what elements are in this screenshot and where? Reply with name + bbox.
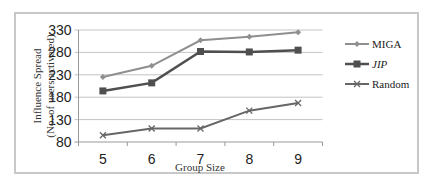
x-tick-label: 9 [294, 151, 302, 167]
jip-marker [246, 48, 253, 55]
y-axis-subtitle: (No. of users activated) [44, 34, 57, 138]
x-tick-label: 5 [99, 151, 107, 167]
x-tick-label: 6 [148, 151, 156, 167]
legend-item-miga: MIGA [345, 38, 401, 50]
legend-item-random: Random [345, 78, 410, 90]
gridlines [75, 30, 323, 142]
jip-marker [197, 48, 204, 55]
legend-label: Random [372, 78, 410, 90]
x-axis-title: Group Size [175, 161, 225, 173]
series-lines [99, 29, 301, 138]
legend-jip-marker [354, 61, 361, 68]
legend-item-jip: JIP [345, 58, 388, 70]
legend-label: JIP [372, 58, 388, 70]
legend-miga-marker [354, 41, 360, 47]
y-axis-title: Influence Spread [31, 48, 43, 123]
miga-marker [246, 34, 252, 40]
legend: MIGAJIPRandom [345, 38, 410, 90]
jip-marker [295, 47, 302, 54]
y-tick-label: 80 [56, 134, 72, 150]
x-tick-label: 8 [245, 151, 253, 167]
jip-marker [148, 79, 155, 86]
legend-label: MIGA [372, 38, 401, 50]
line-chart: 33028023018013080 56789 Influence Spread… [0, 0, 434, 190]
jip-marker [99, 87, 106, 94]
